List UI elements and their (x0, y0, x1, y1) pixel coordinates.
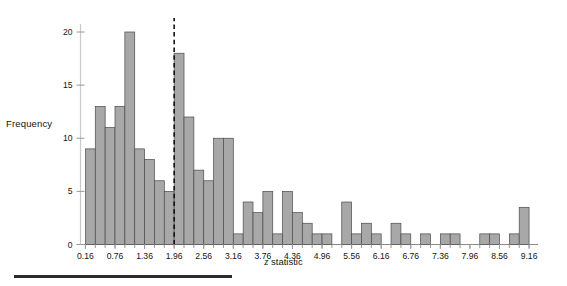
histogram-bar (115, 106, 125, 244)
histogram-bar (243, 202, 253, 245)
histogram-bar (480, 234, 490, 245)
histogram-bar (95, 106, 105, 244)
x-axis-title: z statistic (0, 256, 567, 267)
histogram-bar (342, 202, 352, 245)
histogram-bar (450, 234, 460, 245)
histogram-bar (273, 234, 283, 245)
histogram-bar (283, 191, 293, 244)
y-axis-ticks: 05101520 (63, 27, 85, 250)
histogram-bar (223, 138, 233, 244)
histogram-bar (233, 234, 243, 245)
histogram-bar (174, 53, 184, 244)
histogram-bar (401, 234, 411, 245)
histogram-bar (105, 128, 115, 245)
histogram-bar (154, 181, 164, 245)
histogram-bar (194, 170, 204, 244)
histogram-bar (85, 149, 95, 245)
footer-rule (14, 275, 232, 278)
bars (85, 32, 529, 245)
y-tick-label: 5 (68, 186, 73, 196)
x-axis-title-rest: statistic (268, 256, 302, 267)
histogram-bar (322, 234, 332, 245)
y-tick-label: 20 (63, 27, 73, 37)
histogram-bar (391, 223, 401, 244)
histogram-bar (135, 149, 145, 245)
histogram-plot: 0.160.761.361.962.563.163.764.364.965.56… (0, 0, 567, 286)
histogram-bar (519, 207, 529, 244)
histogram-figure: Frequency 0.160.761.361.962.563.163.764.… (0, 0, 567, 286)
histogram-bar (214, 138, 224, 244)
histogram-bar (509, 234, 519, 245)
histogram-bar (125, 32, 135, 245)
y-tick-label: 0 (68, 240, 73, 250)
histogram-bar (253, 213, 263, 245)
histogram-bar (440, 234, 450, 245)
histogram-bar (421, 234, 431, 245)
histogram-bar (302, 223, 312, 244)
histogram-bar (352, 234, 362, 245)
histogram-bar (490, 234, 500, 245)
histogram-bar (361, 223, 371, 244)
histogram-bar (263, 191, 273, 244)
y-tick-label: 15 (63, 80, 73, 90)
histogram-bar (184, 117, 194, 245)
y-tick-label: 10 (63, 133, 73, 143)
histogram-bar (312, 234, 322, 245)
histogram-bar (292, 213, 302, 245)
histogram-bar (145, 160, 155, 245)
histogram-bar (164, 191, 174, 244)
histogram-bar (371, 234, 381, 245)
histogram-bar (204, 181, 214, 245)
